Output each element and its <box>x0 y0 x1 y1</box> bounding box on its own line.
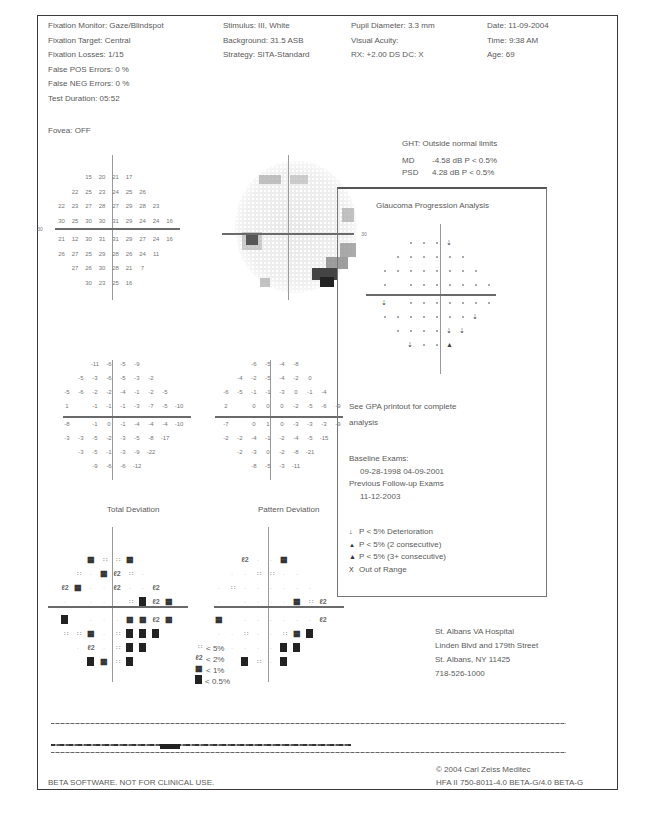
gpa-point <box>462 284 464 286</box>
probability-symbol-p5: ∷ <box>100 555 108 565</box>
horizontal-axis <box>366 294 496 296</box>
value-cell: 0 <box>247 402 261 410</box>
value-cell: 17 <box>122 173 136 181</box>
value-cell: -3 <box>303 420 317 428</box>
probability-symbol-p1: ▩ <box>293 629 301 639</box>
value-cell: -2 <box>144 388 158 396</box>
gpa-point <box>449 302 451 304</box>
probability-symbol-p1: ▩ <box>165 597 173 607</box>
gpa-point <box>436 270 438 272</box>
value-cell: -5 <box>74 374 88 382</box>
gpa-point <box>488 284 490 286</box>
value-cell: 0 <box>261 402 275 410</box>
probability-symbol-p2: ℓ2 <box>319 615 327 625</box>
gpa-map: ⇣⇣⇣⇣⇣⇣▲ <box>360 219 530 379</box>
probability-symbol-p1: ▩ <box>100 657 108 667</box>
gpa-legend-item: ↓P < 5% Deterioration <box>349 527 433 537</box>
value-cell: 27 <box>82 202 96 210</box>
probability-symbol-p05 <box>306 629 313 638</box>
value-cell: 24 <box>136 250 150 258</box>
axis-degree-label: 30 <box>33 225 47 233</box>
probability-symbol-p2: ℓ2 <box>241 555 249 565</box>
probability-symbol-dot: · <box>87 583 95 593</box>
probability-symbol-p5: ∷ <box>113 657 121 667</box>
probability-symbol-dot: · <box>254 629 262 639</box>
gpa-point <box>410 316 412 318</box>
value-cell: 26 <box>82 264 96 272</box>
value-cell: 29 <box>122 217 136 225</box>
value-cell: 25 <box>82 250 96 258</box>
value-cell: -4 <box>275 374 289 382</box>
value-cell: -3 <box>74 448 88 456</box>
gray-defect-inferior <box>260 278 270 287</box>
value-cell: -1 <box>88 420 102 428</box>
value-cell: 0 <box>275 402 289 410</box>
probability-symbol-dot: · <box>139 583 147 593</box>
value-cell: -10 <box>172 402 186 410</box>
value-cell: -2 <box>247 374 261 382</box>
probability-symbol-p05 <box>61 615 68 624</box>
gpa-title: Glaucoma Progression Analysis <box>376 201 489 211</box>
value-cell: -9 <box>130 360 144 368</box>
refraction: RX: +2.00 DS DC: X <box>351 48 435 63</box>
value-cell: -8 <box>289 360 303 368</box>
value-cell: 1 <box>60 402 74 410</box>
value-cell: 31 <box>95 235 109 243</box>
gpa-point <box>410 270 412 272</box>
institution-street: Linden Blvd and 179th Street <box>435 639 538 653</box>
probability-symbol-p2: ℓ2 <box>152 615 160 625</box>
vertical-axis <box>440 224 441 374</box>
value-cell: -1 <box>130 388 144 396</box>
value-cell: -8 <box>60 420 74 428</box>
probability-symbol-p05 <box>87 657 94 666</box>
value-cell: -1 <box>102 448 116 456</box>
probability-symbol-p05 <box>139 643 146 652</box>
gpa-deterioration-marker: ⇣ <box>407 341 413 349</box>
value-cell: 22 <box>68 188 82 196</box>
probability-symbol-dot: · <box>74 643 82 653</box>
probability-symbol-p5: ∷ <box>74 629 82 639</box>
probability-symbol-dot: · <box>254 583 262 593</box>
gpa-point <box>436 330 438 332</box>
baseline-label: Baseline Exams: <box>349 454 409 464</box>
value-cell: -3 <box>317 420 331 428</box>
value-cell: 20 <box>95 173 109 181</box>
value-cell: 28 <box>109 250 123 258</box>
total-deviation-title: Total Deviation <box>107 505 159 515</box>
total-deviation-values: -11-6-5-9-5-3-6-5-3-2-5-6-2-2-4-1-2-51-1… <box>55 360 205 480</box>
value-cell: -3 <box>130 402 144 410</box>
gpa-point <box>410 242 412 244</box>
value-cell: -8 <box>144 434 158 442</box>
gray-defect-superior-right <box>290 175 308 184</box>
false-pos-errors: False POS Errors: 0 % <box>48 63 164 78</box>
probability-symbol-dot: · <box>100 597 108 607</box>
exam-time: Time: 9:38 AM <box>487 34 549 49</box>
value-cell: -5 <box>303 402 317 410</box>
gpa-panel: Glaucoma Progression Analysis ⇣⇣⇣⇣⇣⇣▲ Se… <box>337 187 547 597</box>
value-cell: -7 <box>144 402 158 410</box>
value-cell: 7 <box>136 264 150 272</box>
probability-symbol-dot: · <box>267 629 275 639</box>
probability-symbol-dot: · <box>280 597 288 607</box>
probability-symbol-p1: ▩ <box>126 555 134 565</box>
horizontal-axis <box>63 416 191 418</box>
exam-date: Date: 11-09-2004 <box>487 19 549 34</box>
gpa-point <box>423 330 425 332</box>
probability-symbol-p05 <box>126 643 133 652</box>
value-cell: 29 <box>122 235 136 243</box>
probability-symbol-p5: ∷ <box>113 555 121 565</box>
value-cell: 30 <box>55 217 69 225</box>
probability-symbol-p5: ∷ <box>74 569 82 579</box>
value-cell: -5 <box>303 434 317 442</box>
value-cell: -6 <box>102 462 116 470</box>
value-cell: 0 <box>247 420 261 428</box>
probability-symbol-dot: · <box>254 597 262 607</box>
value-cell: -5 <box>233 388 247 396</box>
probability-symbol-p05 <box>126 657 133 666</box>
probability-symbol-p1: ▩ <box>126 615 134 625</box>
probability-symbol-p2: ℓ2 <box>319 597 327 607</box>
followup-dates: 11-12-2003 <box>360 492 400 502</box>
gpa-deterioration-marker: ⇣ <box>459 327 465 335</box>
gpa-point <box>397 316 399 318</box>
threshold-map: 30 1520211722252324252622232728272928233… <box>55 155 205 305</box>
